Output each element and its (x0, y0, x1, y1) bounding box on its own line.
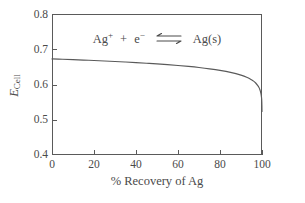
chart-curve-layer (0, 0, 305, 203)
chart-figure: 0.8 0.7 0.6 0.5 0.4 0 20 40 60 80 100 % … (0, 0, 305, 203)
data-series-curve (52, 59, 262, 112)
